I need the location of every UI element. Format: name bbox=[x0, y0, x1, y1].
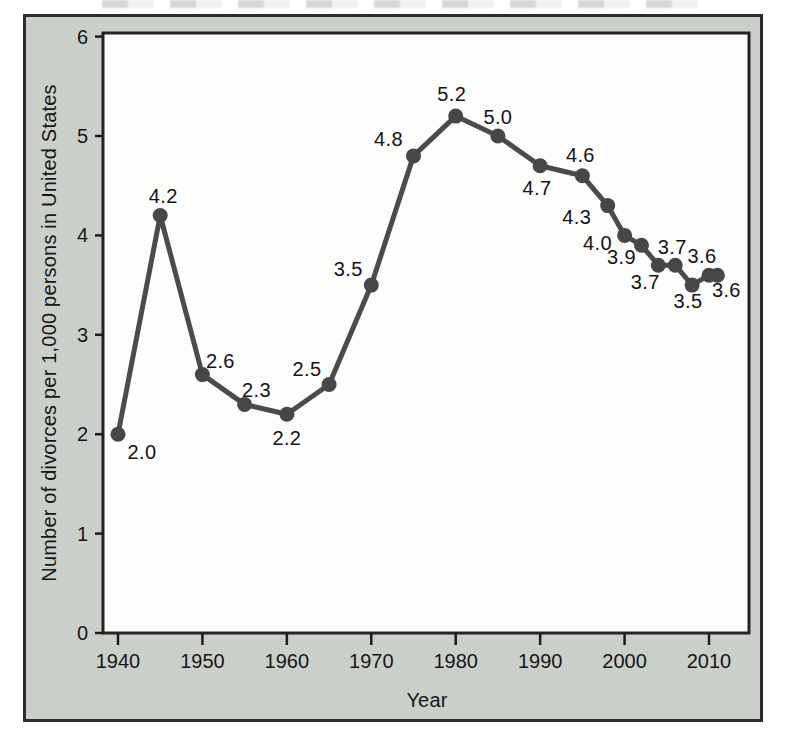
data-label-1960: 2.2 bbox=[272, 427, 301, 449]
x-tick-label-2000: 2000 bbox=[602, 650, 647, 672]
data-label-1998: 4.3 bbox=[562, 206, 591, 228]
data-point-1980 bbox=[448, 109, 463, 124]
data-point-2002 bbox=[634, 238, 649, 253]
x-axis-title: Year bbox=[406, 689, 447, 711]
data-label-2010: 3.6 bbox=[687, 245, 716, 267]
y-axis-title: Number of divorces per 1,000 persons in … bbox=[38, 84, 60, 582]
data-label-1970: 3.5 bbox=[334, 258, 363, 280]
divorce-rate-line-chart: 0123456194019501960197019801990200020102… bbox=[0, 0, 786, 731]
x-tick-label-1980: 1980 bbox=[433, 650, 478, 672]
data-label-1950: 2.6 bbox=[206, 350, 235, 372]
x-tick-label-1950: 1950 bbox=[180, 650, 225, 672]
data-label-1980: 5.2 bbox=[437, 83, 466, 105]
data-point-1998 bbox=[600, 198, 615, 213]
y-tick-label-1: 1 bbox=[77, 523, 88, 545]
data-point-1940 bbox=[111, 427, 126, 442]
y-tick-label-0: 0 bbox=[77, 622, 88, 644]
data-point-1965 bbox=[322, 377, 337, 392]
data-point-1995 bbox=[575, 168, 590, 183]
data-label-2004: 3.7 bbox=[631, 271, 660, 293]
x-tick-label-1960: 1960 bbox=[265, 650, 310, 672]
data-label-2006: 3.7 bbox=[658, 236, 687, 258]
y-tick-label-5: 5 bbox=[77, 125, 88, 147]
y-tick-label-6: 6 bbox=[77, 26, 88, 48]
data-label-2011: 3.6 bbox=[712, 279, 741, 301]
data-label-2002: 3.9 bbox=[607, 246, 636, 268]
x-tick-label-2010: 2010 bbox=[687, 650, 732, 672]
data-point-1990 bbox=[533, 158, 548, 173]
y-tick-label-2: 2 bbox=[77, 423, 88, 445]
data-label-1975: 4.8 bbox=[374, 128, 403, 150]
data-point-2000 bbox=[617, 228, 632, 243]
data-label-1990: 4.7 bbox=[523, 177, 552, 199]
data-point-1985 bbox=[490, 129, 505, 144]
data-label-1940: 2.0 bbox=[127, 441, 156, 463]
data-point-2006 bbox=[668, 258, 683, 273]
x-tick-label-1990: 1990 bbox=[518, 650, 563, 672]
scanned-figure-page: 0123456194019501960197019801990200020102… bbox=[0, 0, 786, 731]
y-tick-label-3: 3 bbox=[77, 324, 88, 346]
data-point-1960 bbox=[279, 407, 294, 422]
data-point-1975 bbox=[406, 148, 421, 163]
data-point-1970 bbox=[364, 278, 379, 293]
plot-area bbox=[103, 33, 749, 633]
data-point-1945 bbox=[153, 208, 168, 223]
x-tick-label-1970: 1970 bbox=[349, 650, 394, 672]
data-label-1945: 4.2 bbox=[149, 185, 178, 207]
x-tick-label-1940: 1940 bbox=[96, 650, 141, 672]
data-label-1985: 5.0 bbox=[483, 106, 512, 128]
data-label-1955: 2.3 bbox=[242, 379, 271, 401]
data-label-2008: 3.5 bbox=[674, 290, 703, 312]
y-tick-label-4: 4 bbox=[77, 224, 88, 246]
data-label-1995: 4.6 bbox=[566, 144, 595, 166]
data-label-1965: 2.5 bbox=[293, 358, 322, 380]
